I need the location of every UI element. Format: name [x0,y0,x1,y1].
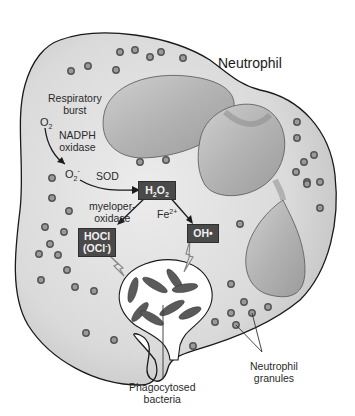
neutrophil-diagram: Neutrophil Respiratory burst O2 NADPH ox… [0,0,355,416]
label-fe2: Fe2+ [157,208,177,220]
label-superoxide: O2- [65,168,80,180]
diagram-graphics [0,0,355,416]
label-respiratory-burst: Respiratory burst [48,92,102,116]
label-neutrophil-granules: Neutrophil granules [250,360,298,384]
label-phagocytosed-bacteria: Phagocytosed bacteria [129,381,196,405]
oh-radical-box: OH• [187,224,219,243]
label-o2: O2 [40,116,52,128]
label-nadph-oxidase: NADPH oxidase [59,129,96,153]
diagram-title: Neutrophil [218,55,282,71]
hocl-box: HOCl (OCl-) [78,228,116,257]
label-myeloperoxidase: myeloper- oxidase [89,200,136,224]
h2o2-box: H2O2 [138,181,176,200]
label-sod: SOD [96,170,119,182]
